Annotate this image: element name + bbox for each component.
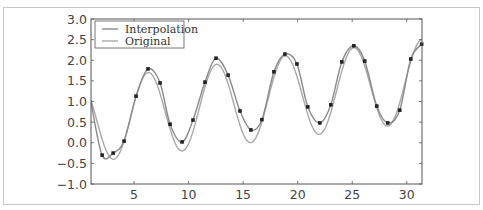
sample-point	[158, 81, 162, 85]
line-chart: 51015202530−1.0−0.50.00.51.01.52.02.53.0…	[0, 0, 483, 210]
plot-curves	[91, 39, 422, 159]
x-tick-label: 30	[399, 187, 415, 202]
y-tick-label: 1.5	[67, 73, 87, 88]
sample-point	[295, 62, 299, 66]
y-tick-label: −0.5	[57, 156, 87, 171]
sample-point	[375, 104, 379, 108]
sample-point	[352, 44, 356, 48]
legend: Interpolation Original	[95, 21, 198, 48]
legend-label-original: Original	[125, 35, 171, 48]
sample-point	[146, 67, 150, 71]
sample-point	[363, 59, 367, 63]
sample-point	[306, 105, 310, 109]
sample-point	[122, 139, 126, 143]
sample-point	[409, 57, 413, 61]
y-tick-label: 2.5	[67, 32, 87, 47]
sample-point	[249, 128, 253, 132]
x-tick-label: 20	[290, 187, 306, 202]
x-tick-label: 10	[181, 187, 197, 202]
sample-point	[318, 121, 322, 125]
sample-point	[398, 108, 402, 112]
x-tick-label: 25	[344, 187, 360, 202]
interpolation-line	[91, 44, 422, 159]
y-tick-label: 1.0	[67, 94, 87, 109]
sample-point	[272, 70, 276, 74]
sample-point	[168, 122, 172, 126]
sample-point	[340, 60, 344, 64]
y-tick-label: 0.0	[67, 135, 87, 150]
original-line	[91, 39, 422, 159]
x-tick-label: 5	[130, 187, 138, 202]
y-tick-label: 2.0	[67, 53, 87, 68]
sample-point	[134, 94, 138, 98]
sample-point	[180, 140, 184, 144]
y-tick-label: −1.0	[57, 177, 87, 192]
y-tick-label: 3.0	[67, 12, 87, 27]
y-tick-label: 0.5	[67, 115, 87, 130]
sample-point	[329, 103, 333, 107]
sample-point	[260, 118, 264, 122]
sample-point	[386, 121, 390, 125]
sample-point	[238, 109, 242, 113]
sample-point	[111, 151, 115, 155]
x-tick-label: 15	[235, 187, 251, 202]
sample-point	[214, 56, 218, 60]
sample-point	[283, 52, 287, 56]
sample-point	[203, 80, 207, 84]
sample-point	[100, 153, 104, 157]
sample-point	[191, 118, 195, 122]
sample-point	[226, 73, 230, 77]
